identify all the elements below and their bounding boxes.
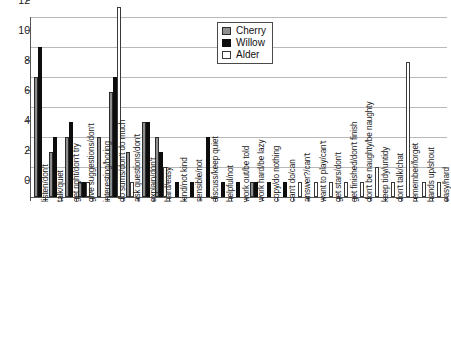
bar-alder [391, 182, 395, 197]
x-axis-label: want to play/can't [319, 141, 328, 202]
x-axis-label: ask questions/don't [133, 134, 142, 202]
x-axis-label: work hard/be lazy [257, 140, 266, 202]
x-axis-label: interesting/boring [103, 141, 112, 202]
x-axis-label: get finished/don't finish [350, 121, 359, 202]
x-axis-label: explain/don't [149, 158, 158, 202]
bar-willow [267, 182, 271, 197]
legend-item-alder: Alder [222, 50, 266, 60]
bar-willow [236, 182, 240, 197]
x-axis-label: copy/do nothing [272, 146, 281, 202]
legend-label: Cherry [236, 26, 266, 36]
bar-alder [329, 182, 333, 197]
legend-swatch-icon [222, 39, 231, 47]
x-axis-labels: listen/don'ttalk/quietget right/don't tr… [30, 202, 447, 347]
legend-item-cherry: Cherry [222, 26, 266, 36]
legend-item-willow: Willow [222, 38, 266, 48]
x-axis-label: don't be naughty/be naughty [365, 102, 374, 202]
legend-swatch-icon [222, 51, 231, 59]
x-axis-label: answer?/can't [303, 153, 312, 202]
x-axis-label: keep tidy/untidy [381, 147, 390, 202]
y-tick-mark [26, 0, 30, 1]
bar-chart: 024681012 listen/don'ttalk/quietget righ… [0, 0, 451, 349]
x-axis-label: discuss/keep quiet [211, 136, 220, 202]
bar-alder [360, 182, 364, 197]
x-axis-label: helpful/not [226, 165, 235, 202]
legend-label: Alder [236, 50, 259, 60]
x-axis-label: easy/hard [442, 167, 451, 202]
bar-willow [221, 182, 225, 197]
x-axis-label: listen/don't [41, 164, 50, 202]
x-axis-label: can't do/can [288, 159, 297, 202]
legend: CherryWillowAlder [217, 22, 273, 64]
x-axis-label: talk/quiet [56, 170, 65, 202]
legend-label: Willow [236, 38, 265, 48]
bar-alder [298, 182, 302, 197]
x-axis-label: give suggestions/don't [87, 123, 96, 202]
bar-willow [283, 182, 287, 197]
x-axis-label: get stars/don't [334, 152, 343, 202]
bar-cherry [97, 137, 101, 197]
x-axis-label: do sums/don't do much [118, 120, 127, 202]
bar-alder [406, 62, 410, 197]
bar-willow [175, 182, 179, 197]
x-axis-label: get right/don't try [72, 143, 81, 202]
x-axis-label: sensible/not [195, 160, 204, 203]
bar-alder [422, 182, 426, 197]
bar-willow [206, 137, 210, 197]
bar-alder [314, 182, 318, 197]
x-axis-label: remember/forget [411, 143, 420, 202]
bar-alder [344, 182, 348, 197]
x-tick-mark [30, 197, 31, 201]
x-axis-label: hands up/shout [427, 147, 436, 202]
bar-alder [375, 167, 379, 197]
x-axis-label: hard/easy [164, 167, 173, 202]
legend-swatch-icon [222, 27, 231, 35]
bar-alder [437, 182, 441, 197]
y-axis: 024681012 [0, 0, 30, 180]
bar-willow [190, 182, 194, 197]
x-axis-label: kind/not kind [180, 157, 189, 202]
x-axis-label: don't talk/chat [396, 153, 405, 202]
x-axis-label: work out/be told [242, 146, 251, 202]
